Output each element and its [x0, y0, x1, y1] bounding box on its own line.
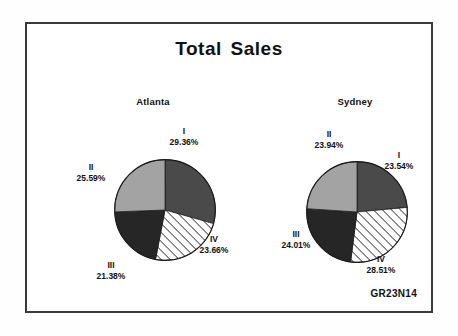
atlanta-label-III-roman: III: [87, 260, 135, 271]
page-title: Total Sales: [27, 38, 431, 60]
atlanta-label-II-roman: II: [67, 162, 115, 173]
sydney-label-II-pct: 23.94%: [305, 140, 353, 151]
atlanta-label-III-pct: 21.38%: [87, 271, 135, 282]
atlanta-label-I-roman: I: [162, 126, 206, 137]
atlanta-label-III: III 21.38%: [87, 260, 135, 282]
sydney-label-IV-roman: IV: [357, 254, 405, 265]
atlanta-label-I-pct: 29.36%: [162, 137, 206, 148]
atlanta-label-II: II 25.59%: [67, 162, 115, 184]
sydney-label-III: III 24.01%: [272, 229, 320, 251]
atlanta-label-IV: IV 23.66%: [190, 234, 238, 256]
atlanta-label-I: I 29.36%: [162, 126, 206, 148]
figure-page: Total Sales Atlanta Sydney: [0, 0, 458, 336]
atlanta-label-IV-roman: IV: [190, 234, 238, 245]
sydney-label-II-roman: II: [305, 129, 353, 140]
sydney-label-I: I 23.54%: [375, 150, 423, 172]
atlanta-label-IV-pct: 23.66%: [190, 245, 238, 256]
sydney-label-III-pct: 24.01%: [272, 240, 320, 251]
sydney-slice-II: [307, 162, 357, 212]
figure-frame: Total Sales Atlanta Sydney: [25, 22, 433, 313]
sydney-label-II: II 23.94%: [305, 129, 353, 151]
sydney-label-I-pct: 23.54%: [375, 161, 423, 172]
atlanta-slice-II: [115, 160, 165, 212]
sydney-label-III-roman: III: [272, 229, 320, 240]
sydney-label-IV: IV 28.51%: [357, 254, 405, 276]
figure-code: GR23N14: [370, 288, 417, 299]
sydney-chart-title: Sydney: [307, 96, 403, 107]
sydney-label-I-roman: I: [375, 150, 423, 161]
atlanta-chart-title: Atlanta: [105, 96, 201, 107]
sydney-label-IV-pct: 28.51%: [357, 265, 405, 276]
atlanta-label-II-pct: 25.59%: [67, 173, 115, 184]
